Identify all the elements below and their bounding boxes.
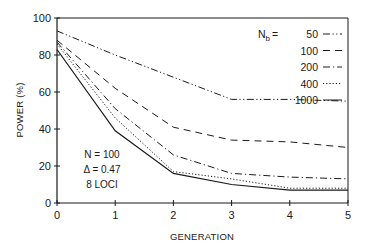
y-tick-label: 40: [39, 123, 51, 135]
y-tick-label: 100: [33, 12, 51, 24]
y-tick-label: 20: [39, 160, 51, 172]
y-ticks: 020406080100: [33, 12, 60, 209]
x-tick-label: 0: [54, 209, 60, 221]
legend-label-nb-100: 100: [300, 45, 318, 57]
legend-title: Nb=: [258, 28, 278, 43]
y-tick-label: 60: [39, 86, 51, 98]
x-tick-label: 2: [170, 209, 176, 221]
annotation-delta: Δ = 0.47: [84, 164, 121, 175]
y-tick-label: 0: [45, 197, 51, 209]
legend: Nb= 501002004001000: [258, 28, 342, 106]
y-axis-title: POWER (%): [14, 82, 25, 137]
x-tick-label: 1: [112, 209, 118, 221]
y-tick-label: 80: [39, 49, 51, 61]
x-tick-label: 5: [345, 209, 351, 221]
legend-label-nb-1000: 1000: [295, 94, 319, 106]
annotation-n: N = 100: [84, 149, 120, 160]
power-vs-generation-chart: 012345 020406080100 GENERATION POWER (%)…: [0, 0, 366, 248]
parameter-annotation: N = 100 Δ = 0.47 8 LOCI: [84, 149, 121, 190]
x-axis-title: GENERATION: [170, 231, 234, 242]
annotation-loci: 8 LOCI: [86, 179, 118, 190]
legend-label-nb-50: 50: [306, 28, 318, 40]
x-tick-label: 4: [287, 209, 293, 221]
x-tick-label: 3: [229, 209, 235, 221]
legend-label-nb-200: 200: [300, 61, 318, 73]
legend-label-nb-400: 400: [300, 78, 318, 90]
